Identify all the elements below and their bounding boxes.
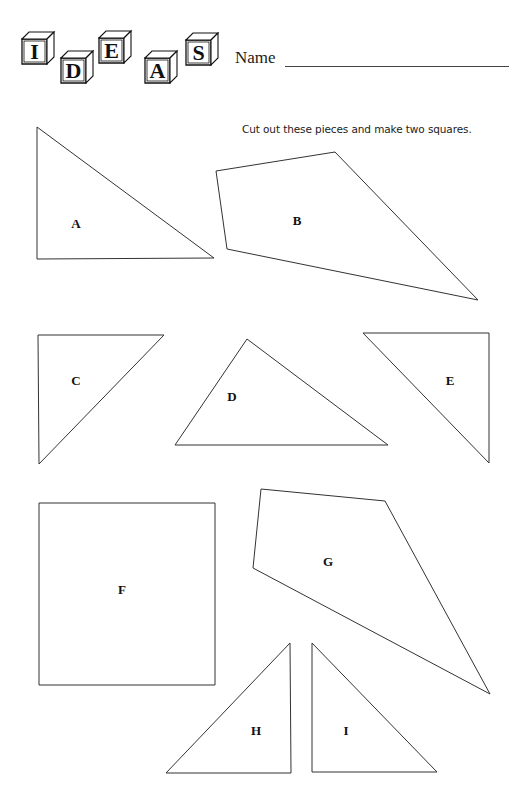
piece-c-label: C bbox=[71, 373, 80, 389]
piece-h-outline[interactable] bbox=[166, 643, 291, 773]
piece-d-outline[interactable] bbox=[175, 339, 388, 445]
piece-b-outline[interactable] bbox=[216, 152, 478, 300]
piece-g-label: G bbox=[323, 554, 333, 570]
piece-b-label: B bbox=[293, 213, 302, 229]
piece-h-label: H bbox=[251, 723, 261, 739]
piece-c-outline[interactable] bbox=[38, 335, 164, 464]
piece-e-label: E bbox=[446, 373, 455, 389]
piece-e-outline[interactable] bbox=[363, 333, 489, 463]
piece-i-label: I bbox=[343, 723, 348, 739]
piece-d-label: D bbox=[227, 389, 236, 405]
cutout-pieces bbox=[0, 0, 515, 801]
piece-a-outline[interactable] bbox=[37, 127, 214, 259]
piece-g-outline[interactable] bbox=[253, 489, 490, 694]
piece-f-label: F bbox=[118, 582, 126, 598]
piece-i-outline[interactable] bbox=[312, 643, 437, 772]
worksheet-page: I D E bbox=[0, 0, 515, 801]
piece-f-outline[interactable] bbox=[39, 503, 215, 685]
piece-a-label: A bbox=[71, 216, 80, 232]
